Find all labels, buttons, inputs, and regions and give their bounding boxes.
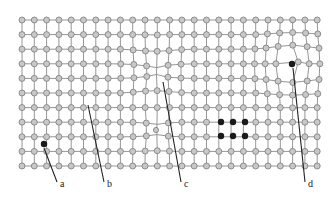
lattice-atom [191,105,197,111]
lattice-atom [56,148,62,154]
lattice-atom [117,105,123,111]
lattice-atom [19,119,25,125]
cluster-atom [230,133,236,139]
lattice-atom [131,62,137,68]
lattice-atom [216,32,222,38]
lattice-atom [19,90,25,96]
lattice-atom [93,17,99,23]
lattice-atom [44,75,50,81]
defect-labels: abcd [44,68,313,189]
lattice-atom [130,148,136,154]
lattice-atom [56,119,62,125]
lattice-atom [68,163,74,169]
lattice-atom [56,90,62,96]
lattice-atom [154,17,160,23]
lattice-atom [56,46,62,52]
lattice-atom [31,17,37,23]
cluster-atom [242,119,248,125]
lattice-atom [19,163,25,169]
lattice-atom [264,31,270,37]
lattice-atom [144,63,150,69]
lattice-atom [93,119,99,125]
lattice-atom [31,61,37,67]
lattice-atom [130,32,136,38]
lattice-atom [165,62,171,68]
lattice-atom [142,48,148,54]
lattice-atom [290,134,296,140]
lattice-atom [118,61,124,67]
lattice-atom [44,90,50,96]
lattice-atom [295,59,301,65]
lattice-atom [178,75,184,81]
lattice-atom [105,105,111,111]
lattice-atom [302,17,308,23]
lattice-atom [240,61,246,67]
lattice-atom [44,61,50,67]
lattice-atom [154,88,160,94]
lattice-atom [265,17,271,23]
lattice-atom [19,134,25,140]
lattice-atom [143,133,149,139]
lattice-atom [277,148,283,154]
substitutional-atom [289,61,295,67]
lattice-atom [130,105,136,111]
cluster-atom [230,119,236,125]
lattice-atom [93,163,99,169]
cluster-atom [218,119,224,125]
lattice-atom [31,119,37,125]
lattice-atom [179,163,185,169]
lattice-atom [228,61,234,67]
lattice-atom [240,163,246,169]
lattice-atom [191,75,197,81]
lattice-atom [117,163,123,169]
lattice-atom [117,32,123,38]
lattice-atom [81,163,87,169]
lattice-atom [31,90,37,96]
lattice-atom [277,105,283,111]
lattice-atom [240,105,246,111]
lattice-atom [315,91,321,97]
lattice-atom [68,61,74,67]
lattice-atom [290,105,296,111]
lattice-atom [228,17,234,23]
lattice-atom [93,105,99,111]
lattice-atom [253,32,259,38]
lattice-atom [275,78,281,84]
lattice-atom [68,119,74,125]
lattice-atom [143,88,149,94]
lattice-atom [81,148,87,154]
defect-label-b: b [107,178,112,189]
lattice-atom [19,61,25,67]
lattice-atom [191,32,197,38]
lattice-atom [277,163,283,169]
lattice-atom [290,163,296,169]
lattice-atom [317,61,323,67]
lattice-atom [19,32,25,38]
lattice-atom [252,61,258,67]
lattice-atom [44,119,50,125]
lattice-atom [56,105,62,111]
lattice-atom [56,134,62,140]
lattice-atom [31,32,37,38]
lattice-atom [31,105,37,111]
lattice-atom [117,119,123,125]
lattice-atom [277,30,283,36]
lattice-atom [216,163,222,169]
lattice-atom [290,92,296,98]
lattice-atom [105,32,111,38]
lattice-atom [179,47,185,53]
lattice-atom [290,42,296,48]
cluster-atom [218,133,224,139]
lattice-atom [240,90,246,96]
lattice-atom [252,76,258,82]
lattice-atom [253,163,259,169]
lattice-atom [277,119,283,125]
lattice-atom [142,163,148,169]
lattice-atom [302,134,308,140]
lattice-atom [314,105,320,111]
lattice-atom [56,163,62,169]
lattice-atom [216,46,222,52]
lattice-atom [290,17,296,23]
lattice-atom [277,134,283,140]
lattice-atom [191,61,197,67]
